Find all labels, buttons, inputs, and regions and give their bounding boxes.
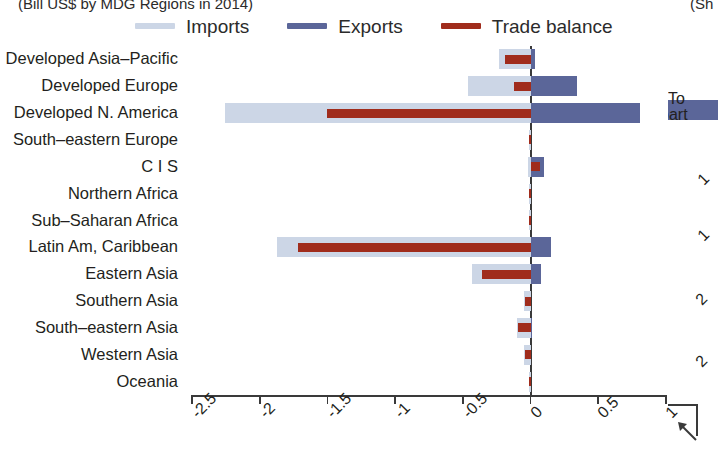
bar-exports	[531, 76, 577, 96]
chart-row	[192, 368, 666, 395]
chart-legend: ImportsExportsTrade balance	[135, 14, 651, 38]
chart-row	[192, 100, 666, 127]
right-chart-tick-4: 2	[692, 352, 711, 371]
category-label: South–eastern Asia	[35, 319, 178, 336]
right-chart-label-line2: part	[668, 106, 688, 124]
right-chart-tick-3: 2	[692, 290, 711, 309]
x-tick	[259, 395, 261, 404]
bar-trade-balance	[482, 270, 531, 279]
plot-area	[192, 46, 666, 395]
legend-swatch-trade-balance	[441, 23, 481, 29]
chart-row	[192, 73, 666, 100]
x-tick	[530, 395, 532, 404]
bar-trade-balance	[529, 216, 531, 225]
bar-trade-balance	[525, 297, 530, 306]
category-label: Developed N. America	[14, 104, 178, 121]
chart-title-left: (Bill US$ by MDG Regions in 2014)	[18, 0, 253, 12]
category-label: Southern Asia	[75, 292, 178, 309]
chart-row	[192, 127, 666, 154]
x-tick-label: 0	[527, 403, 546, 422]
legend-item-exports: Exports	[287, 17, 402, 36]
legend-swatch-imports	[135, 23, 175, 29]
bar-trade-balance	[298, 243, 531, 252]
right-chart-fragment: To part 1 1 2 2	[668, 0, 718, 449]
category-label: Eastern Asia	[85, 265, 178, 282]
legend-label-trade-balance: Trade balance	[492, 17, 613, 36]
bar-exports	[531, 103, 641, 123]
legend-item-trade-balance: Trade balance	[441, 17, 613, 36]
bar-trade-balance	[525, 350, 530, 359]
category-label: Developed Asia–Pacific	[6, 50, 178, 67]
bar-exports	[531, 237, 551, 257]
chart-row	[192, 261, 666, 288]
category-label: Western Asia	[81, 346, 178, 363]
bar-trade-balance	[529, 135, 531, 144]
bar-trade-balance	[529, 377, 531, 386]
legend-swatch-exports	[287, 23, 327, 29]
bar-trade-balance	[514, 82, 530, 91]
chart-row	[192, 180, 666, 207]
chart-row	[192, 234, 666, 261]
bar-exports	[531, 264, 542, 284]
bar-trade-balance	[505, 55, 531, 64]
legend-label-imports: Imports	[186, 17, 249, 36]
category-axis-labels: Developed Asia–PacificDeveloped EuropeDe…	[0, 46, 186, 395]
bar-trade-balance	[531, 162, 540, 171]
category-label: Latin Am, Caribbean	[28, 238, 178, 255]
chart-page: (Bill US$ by MDG Regions in 2014) (Sh Im…	[0, 0, 718, 449]
legend-label-exports: Exports	[338, 17, 402, 36]
x-axis-line	[192, 395, 666, 397]
bar-exports	[531, 49, 535, 69]
chart-row	[192, 207, 666, 234]
bar-exports	[531, 318, 533, 338]
chart-row	[192, 46, 666, 73]
bar-trade-balance	[327, 109, 530, 118]
chart-row	[192, 314, 666, 341]
bar-trade-balance	[518, 323, 530, 332]
right-chart-tick-2: 1	[694, 226, 713, 245]
category-label: Northern Africa	[68, 185, 178, 202]
category-label: C I S	[141, 158, 178, 175]
category-label: Oceania	[117, 373, 178, 390]
legend-item-imports: Imports	[135, 17, 249, 36]
right-chart-horizontal-axis	[668, 404, 698, 406]
bar-trade-balance	[529, 189, 531, 198]
category-label: Developed Europe	[41, 77, 178, 94]
category-label: South–eastern Europe	[13, 131, 178, 148]
chart-row	[192, 341, 666, 368]
chart-row	[192, 153, 666, 180]
chart-row	[192, 288, 666, 315]
category-label: Sub–Saharan Africa	[31, 212, 178, 229]
right-chart-tick-1: 1	[694, 170, 713, 189]
arrow-icon	[676, 420, 698, 442]
